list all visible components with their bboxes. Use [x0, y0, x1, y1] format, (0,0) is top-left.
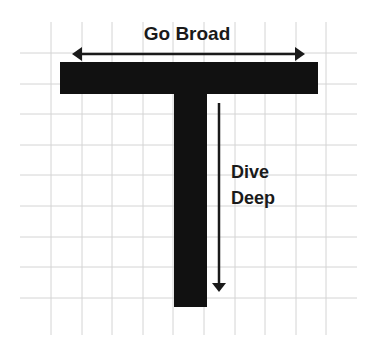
deep-label: Deep — [231, 188, 275, 208]
t-shape-diagram: Go Broad Dive Deep — [0, 0, 375, 352]
dive-label: Dive — [231, 162, 269, 182]
go-broad-label: Go Broad — [144, 23, 231, 44]
t-stem — [174, 62, 207, 307]
